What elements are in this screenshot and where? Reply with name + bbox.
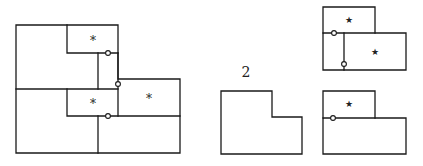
star-icon: ★ — [371, 47, 379, 57]
junction-circle-icon — [331, 116, 336, 121]
diagram-canvas: * * * ★ ★ ★ 2 — [0, 0, 423, 166]
left-lower-box — [67, 89, 180, 116]
right-bottom-lower-box — [323, 118, 406, 154]
left-figure — [16, 25, 180, 153]
middle-l-shape — [221, 91, 302, 154]
junction-circle-icon — [332, 31, 337, 36]
star-icon: ★ — [345, 15, 353, 25]
right-bottom-figure — [323, 91, 406, 154]
star-icon: ★ — [345, 99, 353, 109]
junction-circle-icon — [342, 62, 347, 67]
asterisk-icon: * — [90, 34, 96, 48]
asterisk-icon: * — [146, 92, 152, 106]
figure-label: 2 — [242, 64, 251, 80]
junction-circle-icon — [106, 51, 111, 56]
right-top-lower-box — [323, 33, 406, 70]
junction-circle-icon — [116, 82, 121, 87]
asterisk-icon: * — [90, 97, 96, 111]
right-top-figure — [323, 7, 406, 70]
junction-circle-icon — [106, 114, 111, 119]
